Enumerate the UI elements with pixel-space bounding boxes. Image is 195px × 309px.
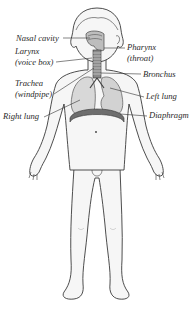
label-trachea-common: (windpipe) [15, 89, 52, 99]
label-diaphragm: Diaphragm [149, 110, 189, 120]
trachea [93, 50, 101, 78]
label-bronchus: Bronchus [143, 69, 176, 79]
label-right-lung: Right lung [3, 111, 39, 121]
label-left-lung: Left lung [146, 91, 177, 101]
label-larynx-common: (voice box) [15, 57, 53, 67]
label-nasal-cavity: Nasal cavity [16, 33, 59, 43]
label-pharynx-common: (throat) [127, 53, 153, 63]
label-pharynx: Pharynx [127, 42, 156, 52]
label-larynx: Larynx [15, 46, 39, 56]
label-trachea: Trachea [15, 78, 43, 88]
